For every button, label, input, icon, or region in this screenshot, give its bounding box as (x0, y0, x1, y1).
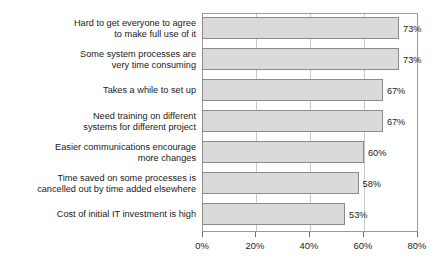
bar-value-label: 60% (364, 147, 386, 158)
bar (202, 203, 345, 225)
bar-track: 53% (202, 199, 418, 230)
category-label: Takes a while to set up (0, 85, 196, 96)
category-label: Hard to get everyone to agree to make fu… (0, 17, 196, 40)
x-axis: 0% 20% 40% 60% 80% (202, 232, 418, 262)
x-tick-label: 40% (300, 240, 319, 251)
bar-track: 58% (202, 168, 418, 199)
bar (202, 48, 399, 70)
horizontal-bar-chart: Hard to get everyone to agree to make fu… (0, 0, 434, 269)
bar (202, 17, 399, 39)
bar-track: 67% (202, 106, 418, 137)
table-row: Hard to get everyone to agree to make fu… (0, 13, 434, 44)
category-label: Need training on different systems for d… (0, 110, 196, 133)
table-row: Cost of initial IT investment is high 53… (0, 199, 434, 230)
bar-track: 73% (202, 13, 418, 44)
table-row: Need training on different systems for d… (0, 106, 434, 137)
x-tick (417, 232, 418, 237)
x-tick (202, 232, 203, 237)
category-label: Some system processes are very time cons… (0, 48, 196, 71)
bar-value-label: 67% (383, 85, 405, 96)
bar-value-label: 67% (383, 116, 405, 127)
bar-value-label: 58% (359, 178, 381, 189)
x-tick (255, 232, 256, 237)
table-row: Takes a while to set up 67% (0, 75, 434, 106)
bar (202, 79, 383, 101)
x-tick-label: 60% (354, 240, 373, 251)
x-tick (363, 232, 364, 237)
category-label: Easier communications encourage more cha… (0, 141, 196, 164)
bar-rows: Hard to get everyone to agree to make fu… (0, 13, 434, 232)
bar (202, 110, 383, 132)
x-tick-label: 80% (408, 240, 427, 251)
bar (202, 172, 359, 194)
bar-value-label: 53% (345, 209, 367, 220)
x-tick (309, 232, 310, 237)
bar-track: 67% (202, 75, 418, 106)
bar-value-label: 73% (399, 54, 421, 65)
x-tick-label: 0% (195, 240, 209, 251)
category-label: Time saved on some processes is cancelle… (0, 172, 196, 195)
category-label: Cost of initial IT investment is high (0, 209, 196, 220)
table-row: Easier communications encourage more cha… (0, 137, 434, 168)
bar (202, 141, 364, 163)
table-row: Some system processes are very time cons… (0, 44, 434, 75)
bar-value-label: 73% (399, 23, 421, 34)
bar-track: 73% (202, 44, 418, 75)
x-tick-label: 20% (246, 240, 265, 251)
bar-track: 60% (202, 137, 418, 168)
table-row: Time saved on some processes is cancelle… (0, 168, 434, 199)
